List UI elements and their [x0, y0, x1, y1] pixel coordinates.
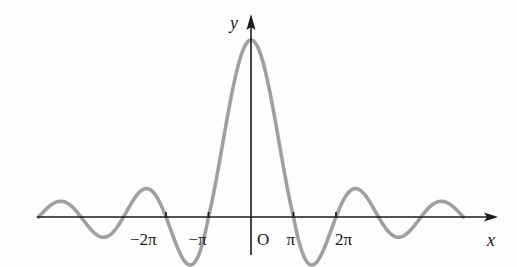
x-tick-label: 2π: [335, 230, 353, 249]
x-axis-label: x: [486, 230, 495, 250]
x-tick-label: −π: [188, 230, 207, 249]
x-tick-label: −2π: [130, 230, 157, 249]
x-tick-label: π: [287, 230, 296, 249]
y-axis-label: y: [228, 13, 238, 33]
chart: −2π−ππ2π y x O: [0, 0, 517, 267]
origin-label: O: [257, 230, 269, 249]
plot-area: −2π−ππ2π y x O: [0, 0, 517, 267]
